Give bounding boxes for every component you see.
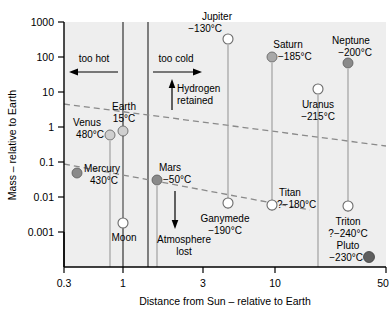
data-label-titan-temp: ?−180°C [277,199,316,210]
data-point-neptune[interactable] [343,58,353,68]
x-tick-label-0.3: 0.3 [57,277,72,289]
data-label-earth-name: Earth [112,101,136,112]
data-label-pluto-temp: −230°C [329,252,363,263]
x-tick-label-10: 10 [269,277,281,289]
data-point-moon[interactable] [118,218,128,228]
x-tick-label-3: 3 [200,277,206,289]
y-axis-title: Mass – relative to Earth [6,90,18,200]
y-tick-label-10: 10 [42,86,54,98]
data-label-saturn-temp: −185°C [278,51,312,62]
y-tick-label-0.001: 0.001 [28,226,54,238]
y-tick-label-100: 100 [36,51,54,63]
x-tick-label-1: 1 [120,277,126,289]
data-label-uranus-temp: −215°C [301,111,335,122]
data-point-jupiter[interactable] [223,34,233,44]
y-tick-label-1: 1 [48,121,54,133]
data-label-triton-name: Triton [335,216,360,227]
data-point-ganymede[interactable] [223,198,233,208]
data-label-venus-name: Venus [73,117,101,128]
too-hot-label: too hot [79,53,110,64]
hydrogen-retained-label-line1: Hydrogen [177,83,220,94]
data-point-mars[interactable] [152,175,162,185]
data-label-mercury-name: Mercury [84,163,120,174]
y-tick-label-0.1: 0.1 [39,156,54,168]
data-point-uranus[interactable] [313,84,323,94]
data-label-jupiter-temp: −130°C [188,23,222,34]
hydrogen-retained-label-line2: retained [177,95,213,106]
chart-container: 1000 100 10 1 0.1 0.01 0.001 0.3 1 3 10 … [0,0,390,313]
data-point-triton[interactable] [343,201,353,211]
atmosphere-lost-label-line1: Atmosphere [157,234,211,245]
data-label-triton-temp: ?−240°C [328,228,367,239]
data-label-neptune-temp: −200°C [338,47,372,58]
data-point-mercury[interactable] [72,168,82,178]
x-axis-title: Distance from Sun – relative to Earth [139,295,311,307]
atmosphere-lost-label-line2: lost [176,246,192,257]
y-tick-label-0.01: 0.01 [34,191,55,203]
data-label-jupiter-name: Jupiter [202,11,233,22]
data-point-saturn[interactable] [267,52,277,62]
x-tick-label-50: 50 [377,277,389,289]
data-label-mars-name: Mars [159,162,181,173]
y-tick-label-1000: 1000 [31,16,55,28]
data-label-titan-name: Titan [279,187,301,198]
too-cold-label: too cold [158,53,193,64]
data-label-neptune-name: Neptune [332,35,370,46]
data-label-mercury-temp: 430°C [90,175,118,186]
data-label-venus-temp: 480°C [76,129,104,140]
data-label-saturn-name: Saturn [273,39,302,50]
data-label-pluto-name: Pluto [337,240,360,251]
data-point-venus[interactable] [105,130,115,140]
data-label-mars-temp: −50°C [163,174,191,185]
data-label-moon-name: Moon [111,232,136,243]
data-point-pluto[interactable] [364,252,375,263]
data-label-ganymede-name: Ganymede [201,213,250,224]
data-point-titan[interactable] [267,200,277,210]
data-label-uranus-name: Uranus [302,99,334,110]
data-label-earth-temp: 15°C [113,113,135,124]
data-label-ganymede-temp: −190°C [208,225,242,236]
data-point-earth[interactable] [118,126,128,136]
mass-vs-distance-scatter-chart: 1000 100 10 1 0.1 0.01 0.001 0.3 1 3 10 … [0,0,390,313]
